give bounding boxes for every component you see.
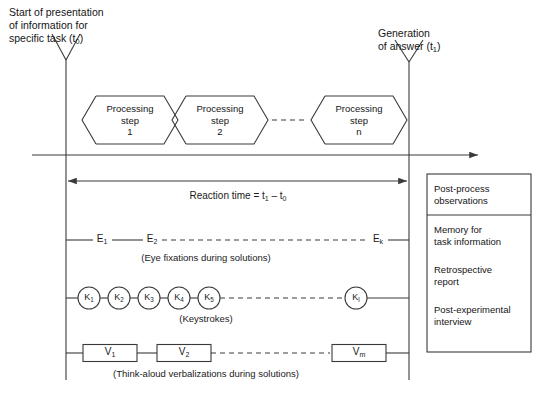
keystroke-node-2: K2 [114, 292, 124, 303]
verbalization-node-1: V1 [105, 346, 116, 358]
eye-fixation-caption: (Eye fixations during solutions) [141, 252, 270, 264]
processing-step-label-1: Processingstep1 [90, 103, 170, 138]
eye-fixation-node-2: E2 [147, 233, 158, 245]
keystroke-caption: (Keystrokes) [179, 313, 232, 325]
processing-step-label-2: Processingstep2 [180, 103, 260, 138]
keystroke-node-1: K1 [84, 292, 94, 303]
keystroke-node-3: K3 [144, 292, 154, 303]
eye-fixation-node-1: E1 [97, 233, 108, 245]
processing-step-label-3: Processingstepn [319, 103, 399, 138]
post-process-item-retrospective-report: Retrospectivereport [434, 264, 492, 288]
start-marker-label: Start of presentationof information fors… [9, 6, 104, 45]
post-process-item-post-experimental-interview: Post-experimentalinterview [434, 304, 511, 328]
eye-fixation-node-k: Ek [373, 233, 383, 245]
end-marker-fork [395, 40, 423, 380]
process-timeline-diagram: Start of presentationof information fors… [0, 0, 537, 398]
verbalization-node-m: Vm [353, 346, 366, 358]
verbalization-nodes [83, 345, 386, 362]
keystroke-node-l: Kl [352, 292, 359, 303]
post-process-item-memory: Memory fortask information [434, 224, 501, 248]
keystroke-node-5: K5 [204, 292, 214, 303]
reaction-time-label: Reaction time = t1 – t0 [189, 190, 286, 202]
keystroke-node-4: K4 [174, 292, 184, 303]
start-marker-fork [52, 34, 80, 380]
end-marker-label: Generationof answer (t1) [378, 27, 440, 53]
verbalization-node-2: V2 [179, 346, 190, 358]
verbalization-caption: (Think-aloud verbalizations during solut… [113, 368, 299, 380]
post-process-panel-header: Post-processobservations [434, 183, 489, 207]
